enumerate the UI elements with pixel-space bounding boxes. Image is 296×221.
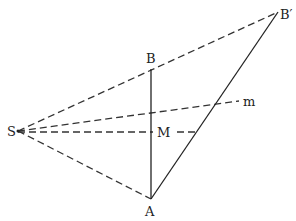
dashed-line-s-bprime <box>18 12 278 131</box>
label-m-lower: m <box>243 94 255 109</box>
label-a: A <box>144 204 155 219</box>
label-b-prime: B′ <box>280 7 293 22</box>
solid-line-a-bprime <box>151 12 278 199</box>
dashed-line-s-a <box>18 131 151 199</box>
label-s: S <box>7 124 16 139</box>
point-s <box>17 130 20 133</box>
label-m-upper: M <box>157 125 170 140</box>
perspective-diagram: S B A B′ m M <box>0 0 296 221</box>
label-b: B <box>146 51 156 66</box>
